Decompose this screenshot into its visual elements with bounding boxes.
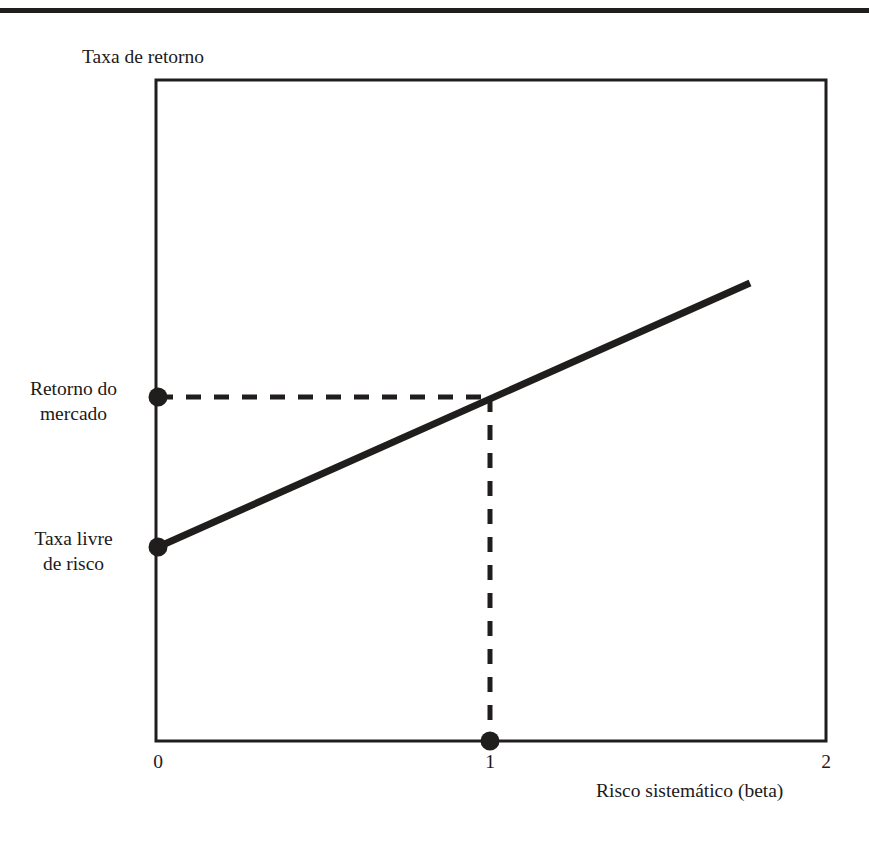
label-market-return-line-1: Retorno do [0,376,147,401]
label-risk-free-rate-line-1: Taxa livre [0,526,147,551]
data-point-beta-one [481,732,500,751]
label-risk-free-rate-line-2: de risco [0,551,147,576]
x-axis-tick-label-1: 1 [470,750,510,774]
label-risk-free-rate: Taxa livre de risco [0,526,147,576]
label-market-return-line-2: mercado [0,401,147,426]
security-market-line [158,283,750,547]
figure-capm-security-market-line: Taxa de retorno Risco sistemático (beta)… [0,0,869,842]
label-market-return: Retorno do mercado [0,376,147,426]
data-point-market-return [149,388,168,407]
x-axis-title: Risco sistemático (beta) [596,778,783,803]
x-axis-tick-label-2: 2 [806,750,846,774]
data-point-risk-free-rate [149,538,168,557]
x-axis-tick-label-0: 0 [138,750,178,774]
y-axis-title: Taxa de retorno [82,44,204,69]
